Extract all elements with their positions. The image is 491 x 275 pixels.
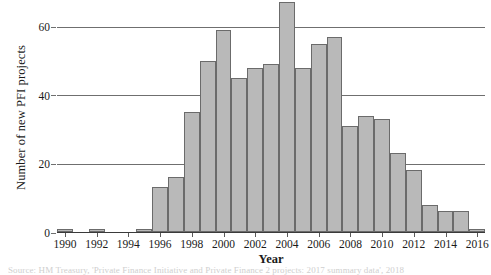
x-tick-mark [414,233,415,237]
bar [184,112,200,232]
bar [295,68,311,232]
plot-area: 0204060 [57,0,485,233]
bar-slot [152,0,168,232]
bar [231,78,247,232]
bar-slot [390,0,406,232]
bar [422,205,438,232]
bar [263,64,279,232]
bar-slot [469,0,485,232]
x-tick-mark [128,233,129,237]
bar [406,170,422,232]
bar-slot [73,0,89,232]
bar [311,44,327,232]
bar [152,187,168,232]
bar [453,211,469,232]
bar [279,2,295,232]
x-tick-mark [65,233,66,237]
bar-series [57,0,485,232]
x-tick-mark [446,233,447,237]
bar-slot [247,0,263,232]
bar-slot [311,0,327,232]
bar [247,68,263,232]
bar-slot [120,0,136,232]
bar-slot [136,0,152,232]
x-tick-mark [192,233,193,237]
bar-slot [57,0,73,232]
y-tick-label-0: 0 [44,227,50,239]
y-tick-mark-60 [51,27,56,28]
bar-slot [295,0,311,232]
bar-slot [422,0,438,232]
y-tick-mark-20 [51,164,56,165]
x-tick-mark [97,233,98,237]
bar-slot [453,0,469,232]
x-tick-mark [319,233,320,237]
bar-slot [231,0,247,232]
y-axis-title: Number of new PFI projects [14,5,29,231]
bar-slot [89,0,105,232]
x-tick-mark [382,233,383,237]
bar-slot [216,0,232,232]
y-tick-label-60: 60 [39,21,51,33]
y-tick-mark-40 [51,95,56,96]
x-tick-mark [287,233,288,237]
bar-slot [279,0,295,232]
bar [168,177,184,232]
x-tick-mark [477,233,478,237]
bar-slot [200,0,216,232]
x-tick-mark [224,233,225,237]
x-tick-label-2016: 2016 [466,238,489,250]
bar-slot [168,0,184,232]
chart-figure: Number of new PFI projects 0204060 19901… [0,0,491,275]
bar-slot [263,0,279,232]
bar-slot [374,0,390,232]
x-tick-mark [160,233,161,237]
bar-slot [105,0,121,232]
bar [342,126,358,232]
bar-slot [358,0,374,232]
y-tick-label-20: 20 [39,158,51,170]
bar [216,30,232,232]
bar-slot [327,0,343,232]
bar [327,37,343,232]
x-tick-mark [255,233,256,237]
x-tick-mark [350,233,351,237]
bar [374,119,390,232]
y-tick-mark-0 [51,233,56,234]
bar [390,153,406,232]
source-note: Source: HM Treasury, 'Private Finance In… [8,265,491,275]
bar-slot [438,0,454,232]
bar-slot [184,0,200,232]
bar [438,211,454,232]
bar-slot [342,0,358,232]
y-tick-label-40: 40 [39,90,51,102]
bar [200,61,216,232]
bar [358,116,374,233]
bar-slot [406,0,422,232]
